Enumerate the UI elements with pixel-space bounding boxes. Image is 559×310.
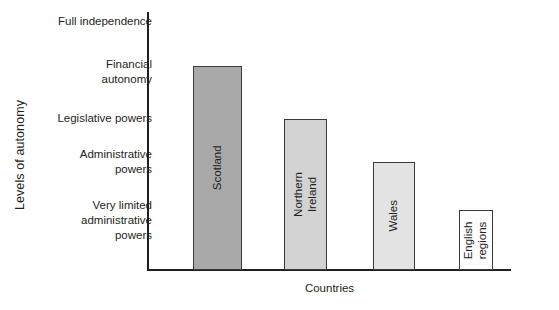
bar-scotland[interactable]: Scotland — [193, 66, 242, 270]
bar-northern-ireland-label: Northern Ireland — [292, 172, 319, 217]
bar-wales[interactable]: Wales — [373, 162, 415, 270]
bar-wales-label: Wales — [387, 200, 401, 232]
bar-english-regions[interactable]: English regions — [459, 210, 493, 270]
bar-northern-ireland[interactable]: Northern Ireland — [284, 119, 327, 270]
bar-english-regions-label: English regions — [463, 221, 490, 259]
bar-chart: Levels of autonomy Full independenceFina… — [0, 0, 559, 310]
plot-area: ScotlandNorthern IrelandWalesEnglish reg… — [0, 0, 559, 310]
bar-scotland-label: Scotland — [211, 146, 225, 191]
x-axis-title: Countries — [148, 282, 511, 294]
